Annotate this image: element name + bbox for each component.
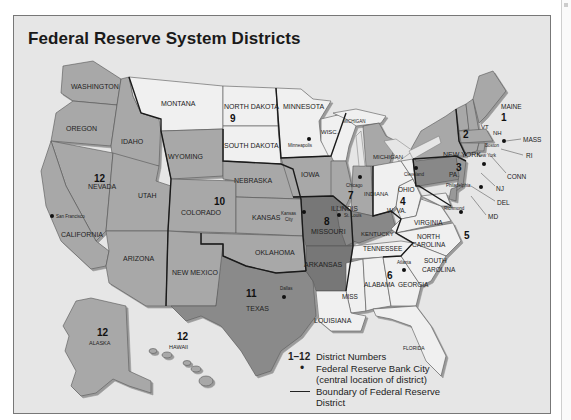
svg-text:3: 3 bbox=[456, 162, 462, 173]
svg-text:CAROLINA: CAROLINA bbox=[422, 266, 456, 273]
svg-text:GEORGIA: GEORGIA bbox=[398, 281, 429, 288]
state-arizona bbox=[106, 231, 168, 306]
svg-text:7: 7 bbox=[348, 190, 354, 201]
state-hawaii bbox=[149, 349, 213, 387]
map-frame: Federal Reserve System Districts bbox=[13, 15, 551, 414]
svg-text:Kansas: Kansas bbox=[281, 211, 297, 216]
legend-boundary-label-1: Boundary of Federal Reserve bbox=[316, 386, 440, 397]
svg-text:Boston: Boston bbox=[485, 143, 500, 148]
svg-text:11: 11 bbox=[246, 288, 257, 299]
svg-text:12: 12 bbox=[177, 331, 189, 342]
svg-text:INDIANA: INDIANA bbox=[364, 191, 388, 197]
svg-text:10: 10 bbox=[214, 196, 226, 207]
state-delaware bbox=[449, 187, 457, 201]
legend-city-label-1: Federal Reserve Bank City bbox=[316, 363, 430, 374]
svg-text:WASHINGTON: WASHINGTON bbox=[71, 83, 119, 90]
svg-text:NH: NH bbox=[493, 130, 502, 136]
svg-text:8: 8 bbox=[324, 216, 330, 227]
svg-text:MICHIGAN: MICHIGAN bbox=[373, 154, 403, 160]
svg-text:W. VA.: W. VA. bbox=[387, 207, 407, 214]
legend-boundary-label-2: District bbox=[316, 397, 440, 408]
svg-text:LOUISIANA: LOUISIANA bbox=[314, 317, 352, 324]
svg-text:9: 9 bbox=[230, 113, 236, 124]
svg-text:ILLINOIS: ILLINOIS bbox=[331, 205, 358, 212]
svg-text:NEBRASKA: NEBRASKA bbox=[234, 177, 272, 184]
legend-city-label-2: (central location of district) bbox=[316, 374, 430, 385]
us-map: WASHINGTON OREGON IDAHO MONTANA WYOMING … bbox=[14, 16, 552, 415]
svg-text:KENTUCKY: KENTUCKY bbox=[361, 231, 394, 237]
svg-text:4: 4 bbox=[400, 196, 406, 207]
svg-text:VIRGINIA: VIRGINIA bbox=[414, 219, 443, 226]
svg-text:DEL: DEL bbox=[497, 199, 510, 206]
svg-text:NEW YORK: NEW YORK bbox=[443, 151, 481, 158]
svg-text:Chicago: Chicago bbox=[346, 183, 363, 188]
svg-text:ALABAMA: ALABAMA bbox=[364, 281, 395, 288]
svg-text:Minneapolis: Minneapolis bbox=[288, 143, 313, 148]
svg-text:City: City bbox=[285, 217, 293, 222]
svg-text:MICHIGAN: MICHIGAN bbox=[343, 119, 366, 124]
legend-bank-city: • Federal Reserve Bank City (central loc… bbox=[288, 363, 440, 385]
svg-text:12: 12 bbox=[97, 327, 109, 338]
state-colorado bbox=[168, 179, 236, 233]
svg-text:CAROLINA: CAROLINA bbox=[412, 241, 446, 248]
svg-text:OREGON: OREGON bbox=[66, 125, 97, 132]
legend-numbers-label: District Numbers bbox=[316, 351, 386, 362]
legend-boundary: Boundary of Federal Reserve District bbox=[288, 386, 440, 408]
svg-text:NORTH DAKOTA: NORTH DAKOTA bbox=[224, 103, 279, 110]
svg-text:RI: RI bbox=[526, 152, 533, 159]
svg-text:KANSAS: KANSAS bbox=[252, 214, 281, 221]
svg-text:6: 6 bbox=[387, 270, 393, 281]
svg-text:HAWAII: HAWAII bbox=[169, 344, 189, 350]
svg-text:Dallas: Dallas bbox=[280, 286, 293, 291]
svg-text:5: 5 bbox=[464, 230, 470, 241]
svg-text:New York: New York bbox=[477, 153, 497, 158]
scrollbar[interactable] bbox=[561, 0, 571, 420]
svg-text:Richmond: Richmond bbox=[444, 206, 465, 211]
svg-text:SOUTH: SOUTH bbox=[424, 257, 447, 264]
svg-text:TEXAS: TEXAS bbox=[246, 305, 269, 312]
bank-city-dot-icon: • bbox=[288, 363, 316, 374]
svg-text:ALASKA: ALASKA bbox=[89, 340, 111, 346]
svg-text:UTAH: UTAH bbox=[138, 192, 157, 199]
svg-text:MINNESOTA: MINNESOTA bbox=[283, 103, 324, 110]
scroll-thumb[interactable] bbox=[564, 3, 568, 7]
svg-text:NEW MEXICO: NEW MEXICO bbox=[172, 269, 218, 276]
svg-text:COLORADO: COLORADO bbox=[181, 209, 222, 216]
svg-text:CONN: CONN bbox=[507, 173, 526, 180]
svg-text:OKLAHOMA: OKLAHOMA bbox=[255, 249, 295, 256]
svg-text:NJ: NJ bbox=[496, 185, 504, 192]
svg-text:2: 2 bbox=[463, 129, 469, 140]
svg-text:NORTH: NORTH bbox=[417, 233, 440, 240]
svg-text:MISSOURI: MISSOURI bbox=[311, 228, 346, 235]
svg-text:WYOMING: WYOMING bbox=[168, 153, 203, 160]
svg-text:NEVADA: NEVADA bbox=[88, 183, 117, 190]
svg-text:Atlanta: Atlanta bbox=[397, 260, 412, 265]
svg-text:ARKANSAS: ARKANSAS bbox=[304, 261, 342, 268]
svg-text:MASS: MASS bbox=[523, 136, 542, 143]
svg-text:Cleveland: Cleveland bbox=[404, 172, 425, 177]
svg-text:TENNESSEE: TENNESSEE bbox=[363, 245, 403, 252]
svg-text:MD: MD bbox=[488, 213, 498, 220]
legend: 1–12 District Numbers • Federal Reserve … bbox=[288, 351, 440, 409]
state-oregon bbox=[51, 101, 117, 146]
svg-text:Philadelphia: Philadelphia bbox=[446, 183, 471, 188]
svg-text:IDAHO: IDAHO bbox=[121, 138, 144, 145]
svg-text:VT: VT bbox=[481, 124, 489, 130]
svg-text:MAINE: MAINE bbox=[501, 103, 522, 110]
svg-text:MISS: MISS bbox=[342, 293, 359, 300]
svg-text:1: 1 bbox=[501, 112, 507, 123]
svg-text:OHIO: OHIO bbox=[398, 186, 415, 193]
svg-text:St. Louis: St. Louis bbox=[344, 213, 362, 218]
svg-text:ARIZONA: ARIZONA bbox=[123, 255, 154, 262]
svg-text:San Francisco: San Francisco bbox=[56, 214, 85, 219]
legend-district-numbers: 1–12 District Numbers bbox=[288, 351, 440, 362]
svg-text:IOWA: IOWA bbox=[301, 171, 320, 178]
state-alaska bbox=[63, 298, 151, 396]
boundary-line-icon bbox=[288, 386, 316, 397]
svg-text:12: 12 bbox=[94, 173, 106, 184]
svg-text:SOUTH DAKOTA: SOUTH DAKOTA bbox=[224, 142, 279, 149]
svg-text:CALIFORNIA: CALIFORNIA bbox=[61, 231, 103, 238]
svg-text:MONTANA: MONTANA bbox=[161, 100, 196, 107]
svg-text:WISC.: WISC. bbox=[321, 129, 339, 135]
